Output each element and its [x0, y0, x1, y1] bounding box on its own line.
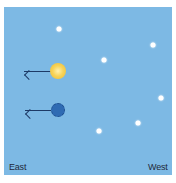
moon-motion-arrow-icon [25, 110, 51, 111]
star-icon [57, 27, 62, 32]
star-icon [159, 96, 164, 101]
star-icon [136, 121, 141, 126]
star-icon [97, 129, 102, 134]
west-label: West [148, 162, 168, 172]
moon-icon [51, 103, 65, 117]
sun-motion-arrow-icon [24, 71, 51, 72]
star-icon [151, 43, 156, 48]
sky-panel [4, 7, 172, 175]
east-label: East [9, 162, 26, 172]
sun-icon [50, 63, 66, 79]
star-icon [102, 58, 107, 63]
